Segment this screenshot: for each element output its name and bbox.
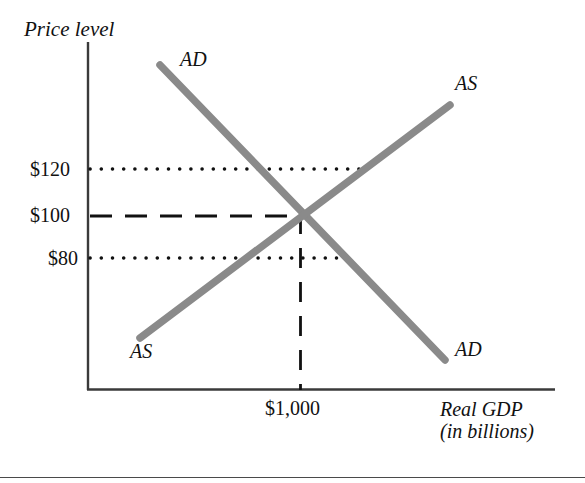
x-axis-title-line1: Real GDP: [440, 398, 523, 420]
x-axis-title: Real GDP(in billions): [440, 398, 534, 443]
x-axis-title-line2: (in billions): [440, 420, 534, 442]
x-tick-label-1000: $1,000: [265, 397, 320, 419]
ad-curve-label-top: AD: [180, 48, 207, 70]
y-tick-label-100: $100: [30, 204, 70, 226]
as-curve-label-bottom: AS: [130, 340, 152, 362]
ad-as-chart-figure: Price level $120 $100 $80 $1,000 Real GD…: [0, 0, 585, 483]
y-tick-label-120: $120: [30, 158, 70, 180]
as-curve-label-top: AS: [455, 72, 477, 94]
y-axis-title: Price level: [24, 18, 114, 42]
bottom-divider: [0, 477, 585, 478]
y-tick-label-80: $80: [48, 247, 78, 269]
ad-curve-label-bottom: AD: [455, 338, 482, 360]
as-curve: [140, 105, 450, 338]
